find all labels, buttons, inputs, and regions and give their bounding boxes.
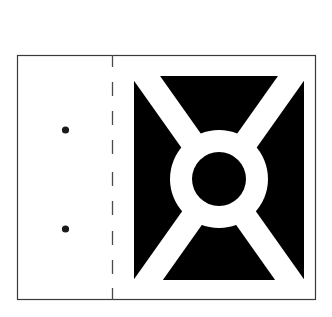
cross-ring-emblem xyxy=(134,76,304,280)
emblem-center-dot xyxy=(192,152,246,206)
punch-hole-bottom xyxy=(62,225,69,232)
card-template-diagram xyxy=(0,0,332,317)
punch-hole-top xyxy=(62,126,69,133)
